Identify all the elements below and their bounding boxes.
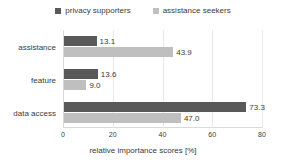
bar: 13.1	[64, 36, 97, 46]
bar-value-label: 13.1	[100, 37, 116, 46]
bar-value-label: 47.0	[184, 114, 200, 123]
plot-area: 13.143.913.69.073.347.0	[63, 30, 262, 128]
y-axis-category-feature: feature	[0, 76, 63, 85]
bar-chart: privacy supporters assistance seekers as…	[0, 0, 286, 166]
x-axis-title: relative importance scores [%]	[0, 146, 286, 156]
legend-swatch-icon	[153, 8, 159, 14]
x-tick-label: 40	[159, 131, 167, 139]
bar: 47.0	[64, 113, 181, 123]
bar: 43.9	[64, 47, 173, 57]
chart-legend: privacy supporters assistance seekers	[0, 6, 286, 15]
x-tick-label: 20	[109, 131, 117, 139]
gridline	[262, 30, 263, 128]
bar: 13.6	[64, 69, 98, 79]
x-tick-label: 60	[208, 131, 216, 139]
bar-value-label: 73.3	[249, 103, 265, 112]
x-tick-label: 0	[61, 131, 65, 139]
legend-label-assistance-seekers: assistance seekers	[163, 6, 231, 15]
legend-label-privacy-supporters: privacy supporters	[65, 6, 130, 15]
y-axis-category-data-access: data access	[0, 109, 63, 118]
bar: 73.3	[64, 102, 246, 112]
legend-swatch-icon	[55, 8, 61, 14]
x-tick-label: 80	[258, 131, 266, 139]
gridline	[212, 30, 213, 128]
bar-value-label: 43.9	[176, 48, 192, 57]
bar-value-label: 9.0	[89, 81, 100, 90]
legend-item-assistance-seekers: assistance seekers	[153, 6, 231, 15]
legend-item-privacy-supporters: privacy supporters	[55, 6, 130, 15]
y-axis-category-assistance: assistance	[0, 43, 63, 52]
bar: 9.0	[64, 80, 86, 90]
bar-value-label: 13.6	[101, 70, 117, 79]
